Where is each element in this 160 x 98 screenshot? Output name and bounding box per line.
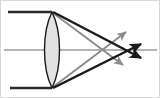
figure-border xyxy=(1,1,160,98)
ray-diagram-canvas xyxy=(0,0,160,98)
biconvex-converging-lens xyxy=(45,12,60,88)
refracted-ray-bottom-to-upper-focus xyxy=(53,44,141,88)
ray-diagram-figure xyxy=(0,0,160,98)
